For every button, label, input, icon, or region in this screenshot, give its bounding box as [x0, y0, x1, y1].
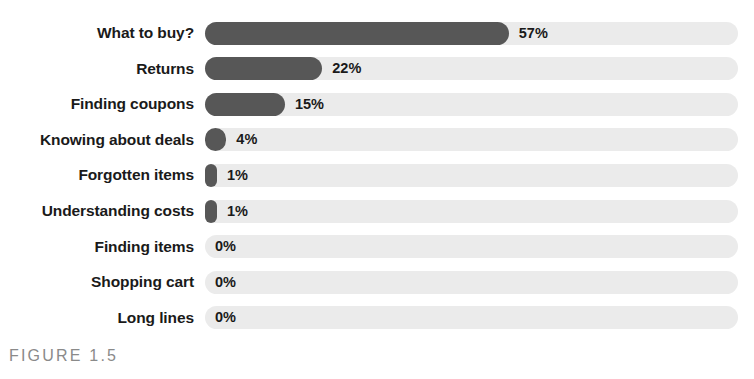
bar-track: 0%	[205, 271, 738, 294]
chart-row: Finding coupons15%	[0, 92, 754, 116]
bar-track: 22%	[205, 57, 738, 80]
value-label: 22%	[332, 57, 361, 80]
category-label: Long lines	[0, 306, 194, 330]
bar-track: 1%	[205, 164, 738, 187]
bar-fill	[205, 164, 217, 187]
value-label: 0%	[215, 235, 236, 258]
value-label: 4%	[236, 128, 257, 151]
value-label: 0%	[215, 306, 236, 329]
bar-chart: What to buy?57%Returns22%Finding coupons…	[0, 0, 754, 340]
category-label: Understanding costs	[0, 199, 194, 223]
category-label: What to buy?	[0, 21, 194, 45]
value-label: 1%	[227, 200, 248, 223]
chart-row: What to buy?57%	[0, 21, 754, 45]
value-label: 15%	[295, 93, 324, 116]
bar-fill	[205, 22, 509, 45]
bar-fill	[205, 93, 285, 116]
figure-caption: FIGURE 1.5	[9, 347, 118, 365]
bar-fill	[205, 57, 322, 80]
chart-row: Long lines0%	[0, 306, 754, 330]
value-label: 57%	[519, 22, 548, 45]
bar-track: 1%	[205, 200, 738, 223]
chart-row: Returns22%	[0, 57, 754, 81]
value-label: 1%	[227, 164, 248, 187]
category-label: Shopping cart	[0, 270, 194, 294]
category-label: Finding items	[0, 235, 194, 259]
bar-track: 0%	[205, 306, 738, 329]
bar-fill	[205, 128, 226, 151]
bar-track: 57%	[205, 22, 738, 45]
chart-row: Knowing about deals4%	[0, 128, 754, 152]
bar-fill	[205, 200, 217, 223]
chart-row: Finding items0%	[0, 235, 754, 259]
category-label: Returns	[0, 57, 194, 81]
figure-container: What to buy?57%Returns22%Finding coupons…	[0, 0, 754, 379]
chart-row: Understanding costs1%	[0, 199, 754, 223]
bar-track: 15%	[205, 93, 738, 116]
chart-row: Shopping cart0%	[0, 270, 754, 294]
bar-track: 4%	[205, 128, 738, 151]
category-label: Forgotten items	[0, 163, 194, 187]
category-label: Finding coupons	[0, 92, 194, 116]
value-label: 0%	[215, 271, 236, 294]
bar-track: 0%	[205, 235, 738, 258]
category-label: Knowing about deals	[0, 128, 194, 152]
chart-row: Forgotten items1%	[0, 163, 754, 187]
